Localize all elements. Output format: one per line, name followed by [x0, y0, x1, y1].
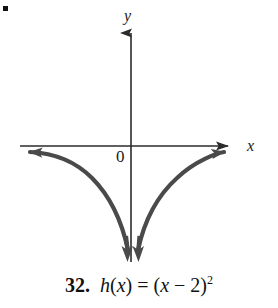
curve-left-branch — [30, 152, 128, 250]
graph-canvas — [0, 0, 278, 308]
arg-open-paren: ( — [110, 274, 117, 296]
figure-caption: 32.h(x)=(x−2)2 — [0, 274, 278, 296]
origin-label: 0 — [116, 148, 125, 165]
exponent: 2 — [207, 273, 213, 287]
function-name: h — [100, 274, 110, 296]
caption-number: 32. — [65, 274, 90, 296]
function-argument: x — [117, 274, 126, 296]
expr-constant: 2 — [190, 274, 200, 296]
y-axis-label: y — [124, 8, 131, 24]
curve-right-branch — [138, 152, 224, 250]
expr-close-paren: ) — [200, 274, 207, 296]
x-axis-label: x — [247, 138, 254, 154]
arg-close-paren: ) — [126, 274, 133, 296]
equals-sign: = — [137, 274, 148, 296]
minus-sign: − — [174, 274, 185, 296]
caption-expression: h(x)=(x−2)2 — [100, 274, 213, 296]
expr-variable: x — [160, 274, 169, 296]
figure-page: y x 0 32.h(x)=(x−2)2 — [0, 0, 278, 308]
